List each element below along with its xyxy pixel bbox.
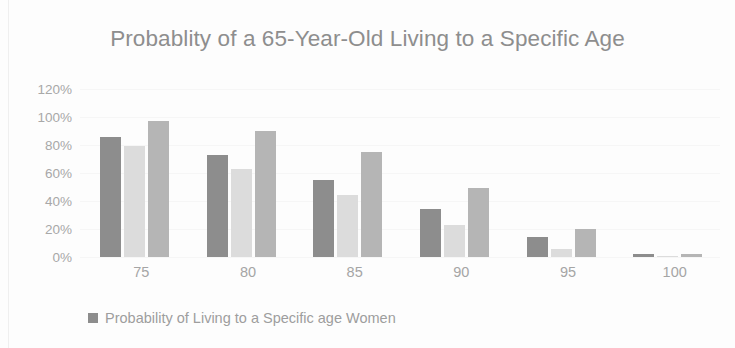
y-axis-tick-label: 60%: [45, 166, 72, 181]
y-axis-tick-label: 20%: [45, 222, 72, 237]
y-axis-tick-label: 120%: [37, 82, 72, 97]
legend-label: Probability of Living to a Specific age …: [105, 310, 396, 326]
bar-group-bars: [507, 89, 614, 257]
bar-group: [293, 89, 400, 257]
bar[interactable]: [313, 180, 334, 257]
x-axis-tick-label: 75: [80, 264, 187, 288]
bar[interactable]: [231, 169, 252, 257]
x-axis-tick-label: 85: [293, 264, 400, 288]
y-axis-labels: 120%100%80%60%40%20%0%: [14, 78, 72, 268]
bar[interactable]: [148, 121, 169, 257]
bar[interactable]: [527, 237, 548, 257]
plot-area: [80, 89, 720, 257]
chart-container: Probablity of a 65-Year-Old Living to a …: [0, 0, 735, 348]
legend-swatch-icon: [88, 313, 98, 323]
x-axis-tick-label: 100: [613, 264, 720, 288]
bar[interactable]: [100, 137, 121, 257]
bar[interactable]: [633, 254, 654, 257]
bar[interactable]: [551, 249, 572, 257]
bar[interactable]: [255, 131, 276, 257]
y-axis-tick-label: 80%: [45, 138, 72, 153]
bar-group: [613, 89, 720, 257]
gridline: [80, 257, 720, 258]
bar-group: [507, 89, 614, 257]
bar-group-bars: [80, 89, 187, 257]
chart-legend: Probability of Living to a Specific age …: [88, 310, 396, 326]
x-axis-tick-label: 95: [507, 264, 614, 288]
bar-group-bars: [613, 89, 720, 257]
y-axis-tick-label: 0%: [52, 250, 72, 265]
bar[interactable]: [207, 155, 228, 257]
bar-group: [187, 89, 294, 257]
bar[interactable]: [681, 254, 702, 257]
bar[interactable]: [361, 152, 382, 257]
bar[interactable]: [575, 229, 596, 257]
chart-title: Probablity of a 65-Year-Old Living to a …: [0, 26, 735, 52]
bar-group-bars: [187, 89, 294, 257]
bar-groups: [80, 89, 720, 257]
y-axis-tick-label: 40%: [45, 194, 72, 209]
x-axis-labels: 7580859095100: [80, 264, 720, 288]
bar[interactable]: [420, 209, 441, 257]
bar-group: [80, 89, 187, 257]
x-axis-tick-label: 80: [187, 264, 294, 288]
bar-group-bars: [293, 89, 400, 257]
bar[interactable]: [468, 188, 489, 257]
bar[interactable]: [657, 256, 678, 258]
scan-artifact-line: [8, 0, 9, 348]
bar-group-bars: [400, 89, 507, 257]
bar-group: [400, 89, 507, 257]
y-axis-tick-label: 100%: [37, 110, 72, 125]
x-axis-tick-label: 90: [400, 264, 507, 288]
bar[interactable]: [124, 146, 145, 257]
bar[interactable]: [444, 225, 465, 257]
bar[interactable]: [337, 195, 358, 257]
